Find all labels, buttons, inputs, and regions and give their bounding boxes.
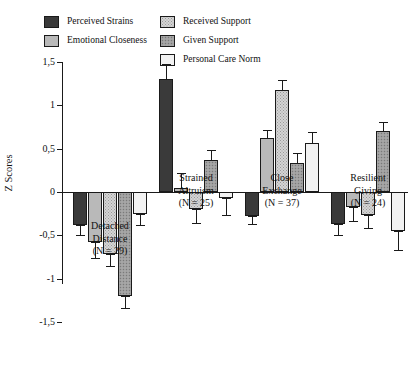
error-bar-cap-outer: [379, 122, 388, 123]
error-bar-cap-outer: [162, 64, 171, 65]
x-axis-group-label-line: Altruism: [156, 185, 236, 198]
x-axis-group-label: CloseExchange(N = 37): [242, 172, 322, 210]
y-axis-label: Z Scores: [3, 154, 14, 191]
x-axis-group-label-line: Detached: [70, 220, 150, 233]
legend-swatch-icon: [160, 35, 175, 47]
legend-label: Given Support: [183, 36, 239, 46]
x-axis-group-sample-size: (N = 37): [242, 197, 322, 210]
error-bar-cap-inner: [207, 160, 216, 161]
error-bar: [211, 150, 212, 160]
y-tick-label: -1: [47, 274, 55, 284]
error-bar-cap-inner: [263, 138, 272, 139]
x-axis-group-label: StrainedAltruism(N = 25): [156, 172, 236, 210]
legend-item-perceived-strains: Perceived Strains: [44, 12, 147, 31]
y-tick-label: -1,5: [39, 317, 55, 327]
legend-swatch-icon: [44, 35, 59, 47]
error-bar: [312, 132, 313, 142]
legend-item-received-support: Received Support: [160, 12, 261, 31]
error-bar-cap-inner: [162, 79, 171, 80]
error-bar-cap-inner: [278, 90, 287, 91]
x-axis-group-label-line: Close: [242, 172, 322, 185]
error-bar: [368, 215, 369, 227]
error-bar-cap-outer: [364, 228, 373, 229]
error-bar: [297, 153, 298, 163]
x-axis-group-label-line: Resilient: [328, 172, 408, 185]
error-bar-cap-inner: [364, 215, 373, 216]
error-bar-cap-outer: [248, 224, 257, 225]
legend-item-given-support: Given Support: [160, 31, 261, 50]
error-bar: [383, 122, 384, 132]
y-tick: [57, 279, 62, 280]
error-bar-cap-outer: [278, 80, 287, 81]
error-bar: [125, 296, 126, 308]
x-axis-group-label-line: Strained: [156, 172, 236, 185]
y-tick-label: -0,5: [39, 230, 55, 240]
x-axis-group-label: ResilientGiving(N = 24): [328, 172, 408, 210]
legend-label: Received Support: [183, 17, 251, 27]
error-bar-cap-inner: [293, 163, 302, 164]
error-bar-cap-outer: [222, 215, 231, 216]
error-bar-cap-outer: [349, 221, 358, 222]
legend-label: Perceived Strains: [67, 17, 133, 27]
x-axis-group-label: DetachedDistance(N = 29): [70, 220, 150, 258]
error-bar-cap-outer: [263, 130, 272, 131]
error-bar-cap-outer: [308, 132, 317, 133]
plot-area: Z Scores 1,510,50-0,5-1-1,5DetachedDista…: [62, 62, 408, 284]
x-axis-group-sample-size: (N = 25): [156, 197, 236, 210]
y-tick: [57, 62, 62, 63]
y-tick-label: 0,5: [43, 144, 56, 154]
error-bar: [282, 80, 283, 90]
error-bar: [252, 216, 253, 224]
legend-swatch-icon: [160, 16, 175, 28]
error-bar: [338, 224, 339, 235]
error-bar: [196, 209, 197, 223]
error-bar-cap-inner: [379, 131, 388, 132]
x-axis-group-label-line: Giving: [328, 185, 408, 198]
error-bar-cap-outer: [121, 308, 130, 309]
y-tick-label: 1,5: [43, 57, 56, 67]
error-bar-cap-inner: [248, 216, 257, 217]
x-axis-group-sample-size: (N = 24): [328, 197, 408, 210]
error-bar-cap-outer: [106, 266, 115, 267]
error-bar-cap-inner: [394, 231, 403, 232]
error-bar-cap-outer: [334, 235, 343, 236]
error-bar-cap-inner: [308, 143, 317, 144]
y-axis: [62, 62, 63, 284]
error-bar-cap-inner: [121, 296, 130, 297]
bar: [133, 192, 147, 214]
legend-item-emotional-closeness: Emotional Closeness: [44, 31, 147, 50]
error-bar: [267, 130, 268, 139]
error-bar: [166, 64, 167, 80]
legend-column-right: Received Support Given Support Personal …: [160, 12, 261, 69]
legend-column-left: Perceived Strains Emotional Closeness: [44, 12, 147, 50]
error-bar-cap-outer: [207, 150, 216, 151]
x-axis-group-label-line: Distance: [70, 233, 150, 246]
y-tick: [57, 192, 62, 193]
y-tick: [57, 149, 62, 150]
x-axis-group-label-line: Exchange: [242, 185, 322, 198]
error-bar-cap-inner: [136, 214, 145, 215]
error-bar: [398, 231, 399, 250]
error-bar-cap-outer: [293, 153, 302, 154]
error-bar-cap-inner: [334, 224, 343, 225]
y-tick: [57, 235, 62, 236]
legend-swatch-icon: [44, 16, 59, 28]
y-tick-label: 1: [50, 100, 55, 110]
y-tick: [57, 322, 62, 323]
x-axis-group-sample-size: (N = 29): [70, 245, 150, 258]
chart-root: Perceived Strains Emotional Closeness Re…: [0, 0, 414, 369]
error-bar-cap-outer: [91, 258, 100, 259]
y-tick: [57, 105, 62, 106]
error-bar-cap-outer: [394, 250, 403, 251]
error-bar-cap-outer: [192, 223, 201, 224]
y-tick-label: 0: [50, 187, 55, 197]
legend-label: Emotional Closeness: [67, 36, 147, 46]
